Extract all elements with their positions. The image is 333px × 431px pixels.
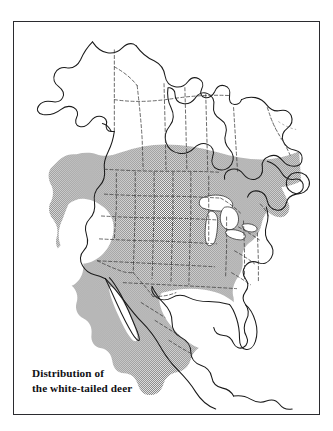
caption-line-2: the white-tailed deer xyxy=(32,381,132,396)
map-caption: Distribution of the white-tailed deer xyxy=(32,366,132,396)
map-frame: Distribution of the white-tailed deer wh… xyxy=(13,21,320,415)
caption-line-1: Distribution of xyxy=(32,366,132,381)
distribution-map xyxy=(14,22,319,414)
figure-root: Distribution of the white-tailed deer wh… xyxy=(0,0,333,431)
